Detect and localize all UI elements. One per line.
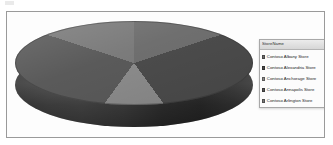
legend-title: StoreName — [262, 42, 325, 46]
pie-slice[interactable] — [15, 21, 253, 105]
legend-item[interactable]: Contoso Annapolis Store — [262, 85, 325, 96]
legend-item[interactable]: Contoso Arlington Store — [262, 96, 325, 107]
legend-panel[interactable]: StoreName Contoso Albany Store Contoso A… — [259, 39, 325, 108]
pie-top-surface — [15, 21, 253, 105]
chart-frame: StoreName Contoso Albany Store Contoso A… — [6, 11, 325, 138]
pie-3d-body — [11, 19, 257, 127]
legend-item-label: Contoso Alexandria Store — [267, 66, 316, 70]
legend-item-label: Contoso Anchorage Store — [267, 77, 316, 81]
legend-swatch-icon — [262, 55, 265, 58]
pie-slices — [15, 21, 253, 105]
legend-items: Contoso Albany Store Contoso Alexandria … — [260, 50, 325, 107]
top-left-artifact — [5, 1, 14, 5]
legend-swatch-icon — [262, 88, 265, 91]
legend-item-label: Contoso Albany Store — [267, 55, 309, 59]
legend-swatch-icon — [262, 66, 265, 69]
legend-swatch-icon — [262, 77, 265, 80]
legend-item[interactable]: Contoso Albany Store — [262, 52, 325, 63]
legend-swatch-icon — [262, 99, 265, 102]
legend-item[interactable]: Contoso Alexandria Store — [262, 63, 325, 74]
pie-chart — [11, 15, 259, 135]
legend-item-label: Contoso Annapolis Store — [267, 88, 315, 92]
legend-item[interactable]: Contoso Anchorage Store — [262, 74, 325, 85]
chart-screenshot: StoreName Contoso Albany Store Contoso A… — [0, 0, 333, 145]
legend-header[interactable]: StoreName — [260, 40, 325, 50]
legend-item-label: Contoso Arlington Store — [267, 99, 313, 103]
